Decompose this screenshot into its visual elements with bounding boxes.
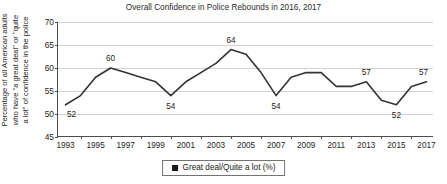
data-point-label: 64 (226, 35, 235, 44)
x-tick-label: 2009 (297, 141, 315, 150)
series-line-great-deal-quite-a-lot (58, 22, 434, 137)
data-point-label: 60 (106, 54, 115, 63)
y-tick-mark (55, 137, 58, 138)
series-polyline (66, 50, 427, 105)
y-axis-label: Percentage of all American adults who ha… (0, 4, 33, 136)
y-axis-label-line-3: a lot" of confidence in the police (21, 17, 31, 124)
data-point-label: 52 (67, 109, 76, 118)
chart-figure: Overall Confidence in Police Rebounds in… (0, 0, 447, 184)
x-tick-label: 2013 (357, 141, 375, 150)
x-tick-label: 1999 (147, 141, 165, 150)
plot-area: 455055606570 199319951997199920012003200… (57, 22, 433, 137)
x-tick-label: 2011 (327, 141, 345, 150)
legend-label: Great deal/Quite a lot (%) (183, 163, 276, 172)
y-tick-label: 55 (45, 86, 54, 96)
x-tick-label: 1995 (86, 141, 104, 150)
x-tick-label: 2017 (417, 141, 435, 150)
x-tick-label: 1993 (56, 141, 74, 150)
data-point-label: 54 (272, 101, 281, 110)
x-tick-label: 2015 (387, 141, 405, 150)
y-axis-label-line-2: who have "a great deal" or "quite (11, 15, 21, 125)
x-tick-label: 2003 (207, 141, 225, 150)
x-tick-label: 2005 (237, 141, 255, 150)
y-axis-label-line-1: Percentage of all American adults (0, 13, 10, 126)
data-point-label: 57 (419, 67, 428, 76)
data-point-label: 54 (166, 101, 175, 110)
x-tick-label: 1997 (117, 141, 135, 150)
y-tick-label: 70 (45, 17, 54, 27)
data-point-label: 52 (392, 110, 401, 119)
chart-legend: Great deal/Quite a lot (%) (162, 160, 286, 176)
data-point-label: 57 (362, 67, 371, 76)
y-tick-label: 50 (45, 109, 54, 119)
y-tick-label: 45 (45, 132, 54, 142)
y-tick-label: 60 (45, 63, 54, 73)
legend-swatch-icon (172, 165, 178, 171)
chart-title: Overall Confidence in Police Rebounds in… (0, 3, 447, 12)
x-tick-label: 2001 (177, 141, 195, 150)
y-tick-label: 65 (45, 40, 54, 50)
x-tick-label: 2007 (267, 141, 285, 150)
